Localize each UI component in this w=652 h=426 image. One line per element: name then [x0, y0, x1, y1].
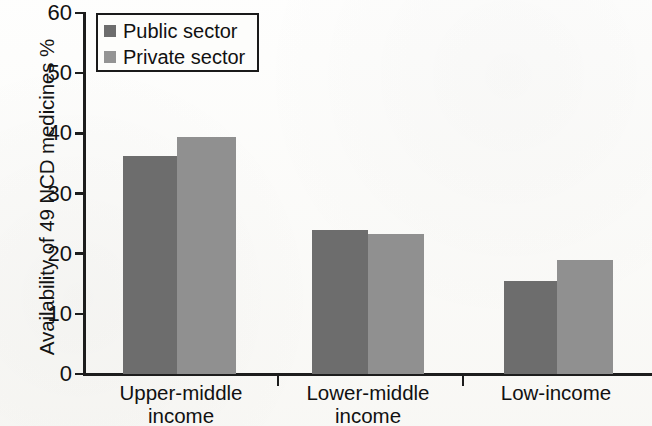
legend-swatch-private-icon	[104, 51, 116, 63]
x-axis-category-label: Low-income	[446, 381, 652, 404]
legend-label-public: Public sector	[123, 21, 238, 41]
legend-swatch-public-icon	[104, 25, 116, 37]
bar-public-0	[123, 156, 177, 374]
bar-public-1	[312, 230, 368, 374]
chart-legend: Public sector Private sector	[96, 13, 259, 72]
bar-private-1	[368, 234, 424, 374]
x-axis-category-label: Lower-middle income	[258, 381, 478, 426]
bar-public-2	[504, 281, 557, 374]
legend-item-public: Public sector	[104, 18, 252, 44]
bar-private-2	[557, 260, 613, 374]
bar-chart-figure: Availability of 49 NCD medicines % 01020…	[0, 0, 652, 426]
legend-label-private: Private sector	[123, 47, 245, 67]
bar-private-0	[177, 137, 236, 374]
legend-item-private: Private sector	[104, 44, 252, 70]
